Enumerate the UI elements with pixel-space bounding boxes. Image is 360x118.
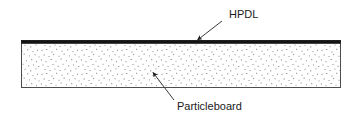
hpdl-leader-line: [198, 21, 223, 40]
hpdl-facing-layer: [22, 41, 341, 44]
particleboard-label: Particleboard: [177, 100, 242, 112]
hpdl-label: HPDL: [229, 8, 258, 20]
hpdl-callout: HPDL: [198, 8, 259, 40]
panel-cross-section-diagram: HPDL Particleboard: [0, 0, 360, 118]
particleboard-core-layer: [22, 41, 341, 88]
